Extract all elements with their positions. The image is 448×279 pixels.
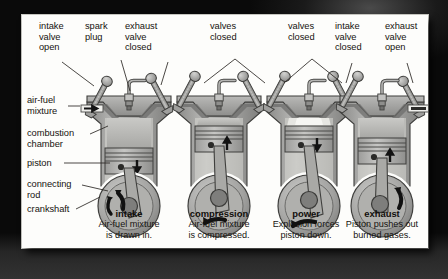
label-exhaust-valve-closed: exhaust valve closed bbox=[125, 21, 157, 53]
label-exhaust-valve-open: exhaust valve open bbox=[385, 21, 417, 53]
label-valves-closed-1: valves closed bbox=[210, 21, 237, 42]
diagram-card: intake valve open spark plug exhaust val… bbox=[22, 15, 428, 248]
label-combustion-chamber: combustion chamber bbox=[27, 128, 74, 149]
caption-exhaust-title: exhaust bbox=[330, 208, 428, 219]
label-crankshaft: crankshaft bbox=[27, 204, 69, 215]
caption-exhaust: exhaust Piston pushes out burned gases. bbox=[330, 208, 428, 241]
label-air-fuel-mixture: air-fuel mixture bbox=[27, 95, 57, 116]
label-intake-valve-closed: intake valve closed bbox=[335, 21, 362, 53]
caption-intake-title: intake bbox=[77, 208, 181, 219]
label-piston: piston bbox=[27, 158, 52, 169]
label-valves-closed-2: valves closed bbox=[288, 21, 315, 42]
caption-intake-desc: Air-fuel mixture is drawn in. bbox=[77, 219, 181, 241]
label-spark-plug: spark plug bbox=[85, 21, 107, 42]
label-intake-valve-open: intake valve open bbox=[39, 21, 64, 53]
caption-exhaust-desc: Piston pushes out burned gases. bbox=[330, 219, 428, 241]
label-connecting-rod: connecting rod bbox=[27, 179, 71, 200]
caption-intake: intake Air-fuel mixture is drawn in. bbox=[77, 208, 181, 241]
